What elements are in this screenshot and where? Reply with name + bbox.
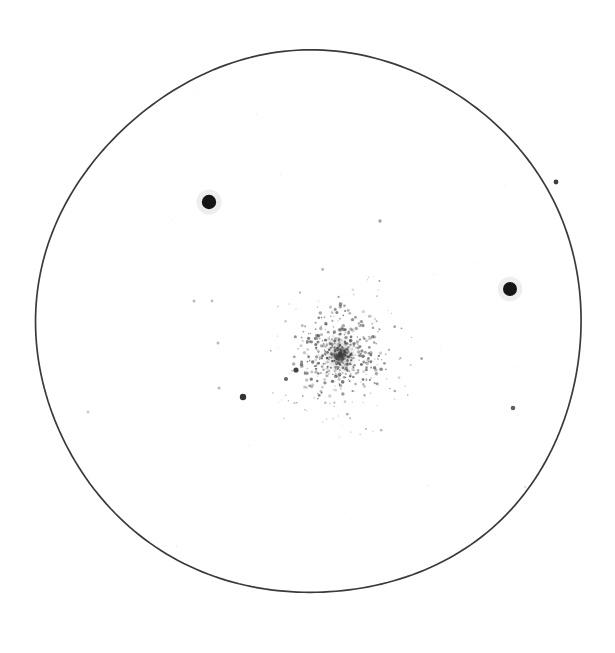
star-marker [378,219,381,222]
star-marker [284,377,288,381]
star-marker [240,394,246,400]
star-marker [503,282,517,296]
star-marker [202,195,216,209]
star-marker [511,406,516,411]
star-marker [524,486,527,489]
star-marker [554,180,559,185]
star-marker [293,367,298,372]
star-marker [217,386,220,389]
star-marker [211,300,214,303]
field-sketch-canvas [0,0,615,653]
paper-background [0,0,615,653]
observation-plate [0,0,615,653]
star-marker [217,342,220,345]
star-marker [193,300,196,303]
star-marker [87,411,90,414]
